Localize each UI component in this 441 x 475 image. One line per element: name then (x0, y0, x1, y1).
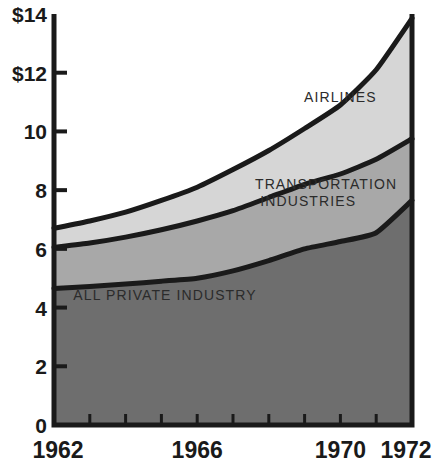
x-tick-label-1972: 1972 (380, 437, 431, 463)
stacked-area-chart: 0246810$12$14 1962196619701972 AIRLINEST… (0, 0, 441, 475)
y-tick-label-14: $14 (12, 3, 47, 26)
y-tick-label-0: 0 (35, 414, 47, 437)
annotation-industries: INDUSTRIES (260, 193, 356, 209)
y-tick-label-12: $12 (12, 62, 47, 85)
x-tick-label-1970: 1970 (315, 437, 366, 463)
annotation-airlines: AIRLINES (304, 89, 377, 105)
y-tick-label-8: 8 (35, 179, 47, 202)
x-axis-tick-labels: 1962196619701972 (32, 437, 431, 463)
y-tick-label-2: 2 (35, 355, 47, 378)
y-tick-label-10: 10 (24, 120, 47, 143)
annotation-transportation: TRANSPORTATION (255, 176, 397, 192)
y-tick-label-6: 6 (35, 238, 47, 261)
chart-page: 0246810$12$14 1962196619701972 AIRLINEST… (0, 0, 441, 475)
x-tick-label-1966: 1966 (172, 437, 223, 463)
y-axis-tick-labels: 0246810$12$14 (12, 3, 47, 437)
x-tick-label-1962: 1962 (32, 437, 83, 463)
annotation-all-private-industry: ALL PRIVATE INDUSTRY (73, 287, 256, 303)
y-tick-label-4: 4 (35, 297, 47, 320)
